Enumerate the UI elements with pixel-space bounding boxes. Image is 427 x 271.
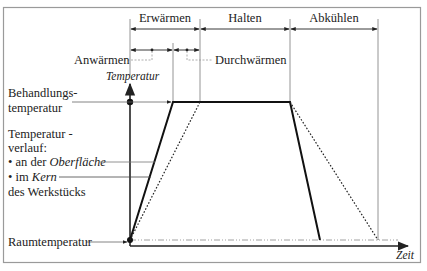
curve-kern-heating (130, 102, 200, 240)
curve-kern-cooling (290, 102, 378, 240)
phase-label-anwaermen: Anwärmen (74, 53, 130, 67)
x-axis-label: Zeit (396, 249, 415, 261)
behandlung-label-line2: temperatur (8, 101, 63, 115)
curve-oberflaeche (130, 102, 320, 240)
legend-title-line2: verlauf: (8, 141, 47, 155)
durchwaermen-dot (186, 49, 189, 52)
anwaermen-dot (151, 49, 154, 52)
phase-label-abkuehlen: Abkühlen (309, 11, 359, 25)
phase-label-halten: Halten (228, 11, 262, 25)
y-axis-label: Temperatur (106, 70, 160, 83)
behandlung-label-line1: Behandlungs- (8, 86, 77, 100)
legend-item-oberflaeche-prefix: • an der (8, 155, 50, 169)
raum-label: Raumtemperatur (8, 235, 93, 249)
legend-title-line1: Temperatur - (8, 127, 73, 141)
legend-item-kern-emph: Kern (31, 170, 57, 184)
durchwaermen-leader (187, 51, 212, 60)
legend-item-oberflaeche-emph: Oberfläche (50, 155, 107, 169)
legend-item-kern-prefix: • im (8, 170, 32, 184)
legend-item-kern: • im Kern (8, 170, 57, 184)
phase-label-durchwaermen: Durchwärmen (215, 53, 287, 67)
legend-item-oberflaeche: • an der Oberfläche (8, 155, 106, 169)
heat-treatment-diagram: Erwärmen Halten Abkühlen Anwärmen Durchw… (0, 0, 427, 271)
phase-label-erwaermen: Erwärmen (139, 11, 192, 25)
legend-title-last: des Werkstücks (8, 185, 86, 199)
